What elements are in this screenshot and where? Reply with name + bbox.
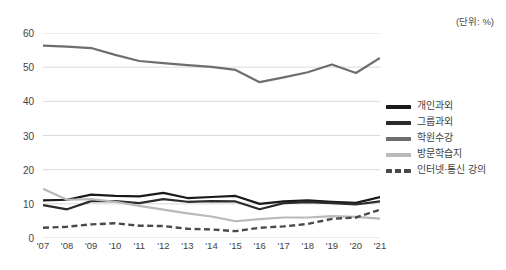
x-tick-label: '15 bbox=[229, 240, 241, 251]
series-lines bbox=[43, 33, 380, 238]
line-chart: (단위: %) 0102030405060 '07'08'09'10'11'12… bbox=[0, 0, 506, 270]
x-axis: '07'08'09'10'11'12'13'14'15'16'17'18'19'… bbox=[43, 240, 380, 260]
legend-item[interactable]: 학원수강 bbox=[386, 132, 504, 144]
unit-note: (단위: %) bbox=[456, 14, 494, 28]
legend-swatch-icon bbox=[386, 121, 411, 125]
x-tick-label: '10 bbox=[109, 240, 121, 251]
legend-item[interactable]: 방문학습지 bbox=[386, 148, 504, 160]
series-line bbox=[43, 46, 380, 83]
y-tick-label: 50 bbox=[23, 62, 34, 73]
legend-item[interactable]: 개인과외 bbox=[386, 100, 504, 112]
y-tick-label: 20 bbox=[23, 164, 34, 175]
x-tick-label: '09 bbox=[85, 240, 97, 251]
x-tick-label: '19 bbox=[326, 240, 338, 251]
legend-label: 개인과외 bbox=[417, 100, 453, 112]
x-tick-label: '20 bbox=[350, 240, 362, 251]
x-tick-label: '07 bbox=[37, 240, 49, 251]
x-tick-label: '08 bbox=[61, 240, 73, 251]
x-tick-label: '16 bbox=[253, 240, 265, 251]
x-tick-label: '18 bbox=[302, 240, 314, 251]
x-tick-label: '17 bbox=[278, 240, 290, 251]
y-axis: 0102030405060 bbox=[0, 33, 38, 238]
legend-label: 학원수강 bbox=[417, 132, 453, 144]
legend-swatch-icon bbox=[386, 153, 411, 157]
y-tick-label: 60 bbox=[23, 28, 34, 39]
y-tick-label: 0 bbox=[28, 233, 34, 244]
legend-swatch-icon bbox=[386, 105, 411, 109]
chart-legend: 개인과외그룹과외학원수강방문학습지인터넷·통신 강의 bbox=[386, 100, 504, 180]
x-tick-label: '14 bbox=[205, 240, 217, 251]
legend-swatch-icon bbox=[386, 169, 411, 173]
x-tick-label: '11 bbox=[133, 240, 145, 251]
legend-label: 그룹과외 bbox=[417, 116, 453, 128]
legend-label: 방문학습지 bbox=[417, 148, 462, 160]
x-tick-label: '12 bbox=[157, 240, 169, 251]
plot-area bbox=[43, 33, 380, 238]
legend-item[interactable]: 인터넷·통신 강의 bbox=[386, 164, 504, 176]
legend-swatch-icon bbox=[386, 137, 411, 141]
y-tick-label: 30 bbox=[23, 130, 34, 141]
series-line bbox=[43, 210, 380, 232]
legend-label: 인터넷·통신 강의 bbox=[417, 164, 486, 176]
x-tick-label: '13 bbox=[181, 240, 193, 251]
x-tick-label: '21 bbox=[374, 240, 386, 251]
y-tick-label: 10 bbox=[23, 198, 34, 209]
y-tick-label: 40 bbox=[23, 96, 34, 107]
legend-item[interactable]: 그룹과외 bbox=[386, 116, 504, 128]
